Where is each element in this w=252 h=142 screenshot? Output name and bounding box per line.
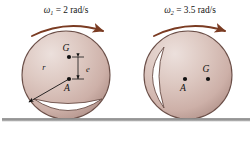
figure-canvas: r e G A ω1 = 2 rad/s A (0, 0, 252, 142)
right-point-G-label: G (203, 63, 210, 74)
right-point-G-dot (206, 77, 210, 81)
right-point-A-dot (183, 77, 187, 81)
left-point-A-label: A (63, 82, 70, 93)
right-wheel-group: A G (144, 31, 232, 119)
left-point-G-dot (67, 55, 71, 59)
left-wheel-group: r e G A (22, 31, 110, 119)
left-omega-label: ω1 = 2 rad/s (44, 5, 89, 16)
left-point-G-label: G (63, 42, 70, 53)
right-omega-equals: = 3.5 rad/s (176, 5, 216, 15)
left-point-A-dot (67, 77, 71, 81)
right-point-A-label: A (179, 82, 186, 93)
left-omega-equals: = 2 rad/s (56, 5, 89, 15)
right-omega-label: ω2 = 3.5 rad/s (164, 5, 216, 16)
left-eccentricity-label: e (86, 65, 90, 74)
rolling-wheels-figure: r e G A ω1 = 2 rad/s A (0, 0, 252, 142)
